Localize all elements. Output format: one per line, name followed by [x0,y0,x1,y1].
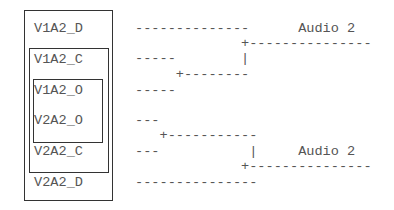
connector-line-9: +--------------- [135,159,372,175]
connector-line-10: --------------- [135,175,257,191]
node-label-v1a2-c: V1A2_C [34,52,83,68]
connector-line-1: -------------- Audio 2 [135,21,355,37]
connector-line-2: +--------------- [135,36,372,52]
connector-line-7: +----------- [135,128,257,144]
node-label-v1a2-d: V1A2_D [34,21,83,37]
node-label-v2a2-o: V2A2_O [34,113,83,129]
node-label-v2a2-c: V2A2_C [34,144,83,160]
connector-line-3: ----- | [135,51,249,67]
node-label-v1a2-o: V1A2_O [34,83,83,99]
connector-line-4: +-------- [135,67,249,83]
connector-line-8: --- | Audio 2 [135,144,355,160]
connector-line-5: ----- [135,83,176,99]
node-label-v2a2-d: V2A2_D [34,175,83,191]
connector-line-6: --- [135,113,159,129]
